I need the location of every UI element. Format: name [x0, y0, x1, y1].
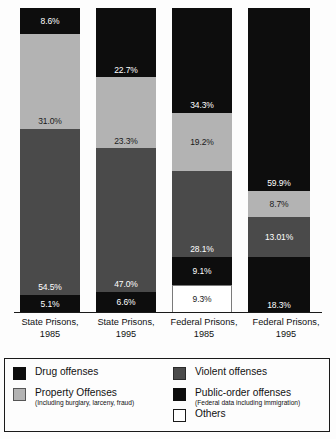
stacked-bar-state-1995[interactable]: 22.7% 23.3% 47.0% 6.6% [96, 8, 156, 313]
bar-segment-property[interactable]: 31.0% [20, 34, 80, 129]
segment-value-label: 5.1% [20, 300, 80, 309]
legend-swatch-public-order-icon [173, 388, 186, 401]
segment-value-label: 9.3% [173, 295, 231, 304]
bar-segment-violent[interactable]: 28.1% [172, 171, 232, 257]
segment-value-label: 18.3% [248, 301, 310, 310]
x-axis-label-state-1995: State Prisons, 1995 [84, 317, 168, 340]
segment-value-label: 9.1% [172, 266, 232, 275]
legend-label: Public-order offenses [195, 387, 300, 398]
bar-segment-drug[interactable]: 22.7% [96, 8, 156, 77]
stacked-bar-federal-1985[interactable]: 34.3% 19.2% 28.1% 9.1% 9.3% [172, 8, 232, 313]
x-axis-labels: State Prisons, 1985 State Prisons, 1995 … [0, 317, 336, 349]
legend-column-right: Violent offenses Public-order offenses (… [173, 359, 333, 431]
bar-segment-property[interactable]: 8.7% [248, 191, 310, 218]
legend-label: Property Offenses [35, 387, 134, 398]
segment-value-label: 8.7% [248, 200, 310, 209]
bar-segment-violent[interactable]: 13.01% [248, 217, 310, 257]
legend-swatch-violent-icon [173, 367, 186, 380]
x-axis-line [14, 312, 322, 313]
segment-value-label: 19.2% [172, 138, 232, 147]
bar-segment-others[interactable]: 9.3% [172, 285, 232, 313]
x-label-line2: 1995 [240, 329, 332, 341]
x-label-line1: Federal Prisons, [253, 317, 320, 327]
bar-segment-public-order[interactable]: 5.1% [20, 295, 80, 313]
bar-segment-violent[interactable]: 47.0% [96, 148, 156, 291]
bar-segment-violent[interactable]: 54.5% [20, 129, 80, 295]
legend-swatch-drug-icon [13, 367, 26, 380]
x-axis-label-federal-1985: Federal Prisons, 1985 [160, 317, 248, 340]
legend-sublabel: (Including burglary, larceny, fraud) [35, 399, 134, 407]
chart-legend: Drug offenses Property Offenses (Includi… [4, 358, 330, 432]
x-label-line1: State Prisons, [21, 317, 78, 327]
legend-item-public-order-offenses[interactable]: Public-order offenses (Federal data incl… [173, 387, 333, 407]
legend-sublabel: (Federal data including immigration) [195, 399, 300, 407]
bar-segment-public-order[interactable]: 9.1% [172, 257, 232, 285]
legend-column-left: Drug offenses Property Offenses (Includi… [13, 359, 173, 431]
segment-value-label: 34.3% [172, 101, 232, 110]
legend-item-others[interactable]: Others [173, 408, 333, 422]
legend-label: Others [195, 408, 226, 419]
stacked-bar-state-1985[interactable]: 8.6% 31.0% 54.5% 5.1% [20, 8, 80, 313]
bar-segment-drug[interactable]: 8.6% [20, 8, 80, 34]
segment-value-label: 22.7% [96, 66, 156, 75]
bar-segment-property[interactable]: 19.2% [172, 113, 232, 172]
legend-label: Violent offenses [195, 366, 267, 377]
segment-value-label: 54.5% [20, 283, 80, 292]
bar-segment-public-order[interactable]: 18.3% [248, 257, 310, 313]
x-label-line2: 1985 [160, 329, 248, 341]
bar-segment-drug[interactable]: 59.9% [248, 8, 310, 191]
legend-item-violent-offenses[interactable]: Violent offenses [173, 366, 333, 380]
x-label-line2: 1995 [84, 329, 168, 341]
segment-value-label: 59.9% [248, 179, 310, 188]
segment-value-label: 31.0% [20, 117, 80, 126]
legend-item-property-offenses[interactable]: Property Offenses (Including burglary, l… [13, 387, 173, 407]
plot-area: 8.6% 31.0% 54.5% 5.1% 22.7% 23.3% 47.0% [0, 0, 336, 313]
segment-value-label: 28.1% [172, 245, 232, 254]
segment-value-label: 13.01% [248, 233, 310, 242]
legend-swatch-others-icon [173, 409, 186, 422]
legend-item-drug-offenses[interactable]: Drug offenses [13, 366, 173, 380]
x-axis-label-state-1985: State Prisons, 1985 [8, 317, 92, 340]
bar-segment-public-order[interactable]: 6.6% [96, 292, 156, 313]
legend-swatch-property-icon [13, 388, 26, 401]
chart-page: 8.6% 31.0% 54.5% 5.1% 22.7% 23.3% 47.0% [0, 0, 336, 439]
bar-segment-property[interactable]: 23.3% [96, 77, 156, 148]
legend-label: Drug offenses [35, 366, 98, 377]
segment-value-label: 23.3% [96, 137, 156, 146]
x-axis-label-federal-1995: Federal Prisons, 1995 [240, 317, 332, 340]
segment-value-label: 8.6% [20, 17, 80, 26]
bar-segment-drug[interactable]: 34.3% [172, 8, 232, 113]
segment-value-label: 6.6% [96, 298, 156, 307]
segment-value-label: 47.0% [96, 280, 156, 289]
x-label-line2: 1985 [8, 329, 92, 341]
x-label-line1: State Prisons, [97, 317, 154, 327]
x-label-line1: Federal Prisons, [171, 317, 238, 327]
stacked-bar-federal-1995[interactable]: 59.9% 8.7% 13.01% 18.3% [248, 8, 310, 313]
